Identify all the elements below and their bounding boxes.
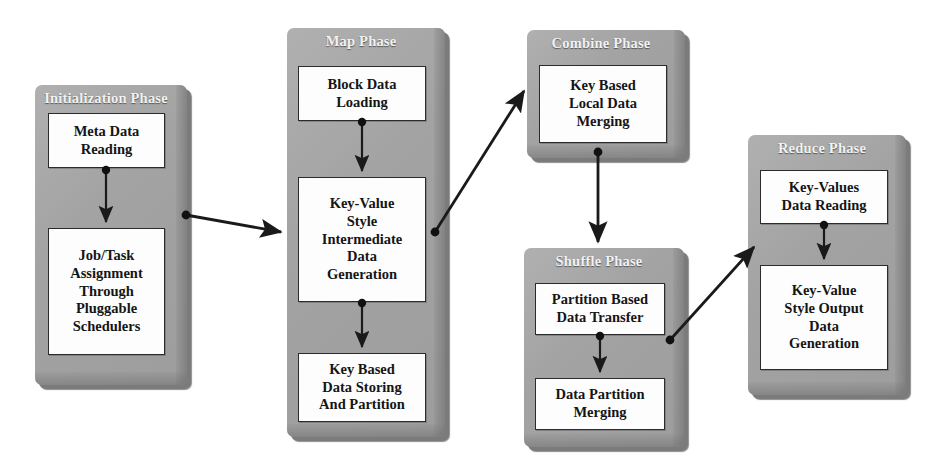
- node-label: Partition BasedData Transfer: [539, 291, 661, 326]
- node-label: Key-ValueStyle OutputDataGeneration: [764, 282, 884, 353]
- panel-right-bevel: [673, 248, 684, 447]
- panel-right-bevel: [895, 135, 906, 395]
- panel-bottom-bevel: [748, 382, 906, 395]
- panel-bottom-bevel: [524, 434, 684, 447]
- panel-right-bevel: [176, 85, 187, 385]
- mapreduce-phases-diagram: Initialization Phase Meta DataReading Jo…: [0, 0, 946, 469]
- node-job-task-assignment[interactable]: Job/TaskAssignmentThroughPluggableSchedu…: [48, 228, 165, 355]
- node-label: Key BasedLocal DataMerging: [543, 77, 663, 130]
- panel-bottom-bevel: [35, 372, 187, 385]
- node-key-based-data-storing[interactable]: Key BasedData StoringAnd Partition: [298, 353, 426, 422]
- node-meta-data-reading[interactable]: Meta DataReading: [48, 113, 165, 168]
- node-data-partition-merging[interactable]: Data PartitionMerging: [535, 378, 665, 430]
- panel-bottom-bevel: [287, 424, 445, 437]
- connector-init-to-map: [182, 211, 281, 232]
- node-block-data-loading[interactable]: Block DataLoading: [298, 66, 426, 121]
- connector-combine-to-shuffle: [594, 148, 603, 242]
- node-label: Block DataLoading: [302, 76, 422, 111]
- node-label: Meta DataReading: [52, 123, 161, 158]
- panel-right-bevel: [674, 30, 685, 158]
- node-label: Data PartitionMerging: [539, 386, 661, 421]
- phase-title-reduce: Reduce Phase: [748, 140, 896, 157]
- phase-title-shuffle: Shuffle Phase: [524, 253, 674, 270]
- node-key-value-intermediate[interactable]: Key-ValueStyleIntermediateDataGeneration: [298, 177, 426, 302]
- panel-bottom-bevel: [527, 145, 685, 158]
- node-label: Key-ValuesData Reading: [764, 179, 884, 214]
- phase-title-initialization: Initialization Phase: [35, 90, 177, 107]
- panel-right-bevel: [434, 28, 445, 437]
- node-key-value-output-generation[interactable]: Key-ValueStyle OutputDataGeneration: [760, 265, 888, 370]
- phase-title-map: Map Phase: [287, 33, 435, 50]
- node-label: Job/TaskAssignmentThroughPluggableSchedu…: [52, 247, 161, 335]
- node-key-values-data-reading[interactable]: Key-ValuesData Reading: [760, 170, 888, 224]
- node-label: Key-ValueStyleIntermediateDataGeneration: [302, 195, 422, 283]
- node-label: Key BasedData StoringAnd Partition: [302, 361, 422, 414]
- phase-title-combine: Combine Phase: [527, 35, 675, 52]
- node-partition-based-transfer[interactable]: Partition BasedData Transfer: [535, 283, 665, 335]
- node-key-based-local-merging[interactable]: Key BasedLocal DataMerging: [539, 65, 667, 143]
